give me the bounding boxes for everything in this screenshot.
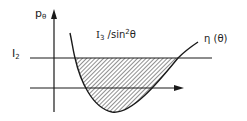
- p-theta-axis-arrow-icon: [51, 9, 57, 19]
- eta-label: η (θ): [204, 33, 228, 44]
- p-theta-label: pθ: [35, 7, 46, 21]
- centrifugal-term-label: I3 /sin2θ: [96, 28, 136, 42]
- phase-diagram: pθ I2 I3 /sin2θ η (θ): [0, 0, 247, 121]
- i2-label: I2: [12, 47, 20, 61]
- allowed-region-hatch: [75, 58, 178, 112]
- theta-axis-arrow-icon: [174, 85, 184, 91]
